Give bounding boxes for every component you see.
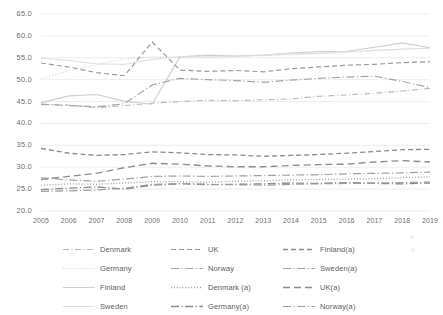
legend-item-germany-a[interactable]: Germany(a) xyxy=(170,302,282,311)
series-line-uk xyxy=(41,42,430,76)
y-axis-tick-label: 35.0 xyxy=(2,140,32,149)
x-axis-tick-label: 2014 xyxy=(277,217,305,224)
y-axis-tick-label: 25.0 xyxy=(2,184,32,193)
x-axis-tick-label: 2011 xyxy=(194,217,222,224)
legend-label: Sweden(a) xyxy=(320,264,357,273)
legend-item-denmark-a[interactable]: Denmark (a) xyxy=(170,283,282,292)
series-line-sweden xyxy=(41,48,430,64)
y-axis-tick-label: 65.0 xyxy=(2,9,32,18)
x-axis-tick-label: 2015 xyxy=(305,217,333,224)
legend-label: Denmark (a) xyxy=(208,283,251,292)
x-axis-tick-label: 2006 xyxy=(55,217,83,224)
legend-label: UK(a) xyxy=(320,283,340,292)
legend-label: Denmark xyxy=(100,245,131,254)
legend-item-norway[interactable]: Norway xyxy=(170,264,282,273)
x-axis-tick-label: 2017 xyxy=(360,217,388,224)
legend-label: Finland(a) xyxy=(320,245,355,254)
plot-area xyxy=(0,0,437,232)
y-axis-tick-label: 50.0 xyxy=(2,75,32,84)
x-axis-tick-label: 2019 xyxy=(416,217,443,224)
legend-swatch-icon xyxy=(170,302,204,311)
x-axis-tick-label: 2008 xyxy=(110,217,138,224)
legend-swatch-icon xyxy=(170,283,204,292)
legend-swatch-icon xyxy=(62,283,96,292)
x-axis-tick-label: 2010 xyxy=(166,217,194,224)
y-axis-tick-label: 45.0 xyxy=(2,97,32,106)
legend-swatch-icon xyxy=(282,283,316,292)
legend-item-denmark[interactable]: Denmark xyxy=(62,245,170,254)
legend-label: Sweden xyxy=(100,302,128,311)
watermark-mark: ● xyxy=(409,232,414,242)
series-line-uk-a xyxy=(41,161,430,180)
legend-swatch-icon xyxy=(62,264,96,273)
legend-item-uk-a[interactable]: UK(a) xyxy=(282,283,402,292)
legend-label: UK xyxy=(208,245,219,254)
series-line-denmark xyxy=(41,88,430,107)
legend-label: Norway(a) xyxy=(320,302,356,311)
x-axis-tick-label: 2005 xyxy=(27,217,55,224)
legend-swatch-icon xyxy=(282,245,316,254)
y-axis-tick-label: 30.0 xyxy=(2,162,32,171)
x-axis-tick-label: 2013 xyxy=(249,217,277,224)
legend-item-sweden-a[interactable]: Sweden(a) xyxy=(282,264,402,273)
y-axis-tick-label: 40.0 xyxy=(2,118,32,127)
legend-label: Norway xyxy=(208,264,234,273)
legend-label: Germany(a) xyxy=(208,302,249,311)
legend-item-norway-a[interactable]: Norway(a) xyxy=(282,302,402,311)
legend-item-uk[interactable]: UK xyxy=(170,245,282,254)
legend-item-germany[interactable]: Germany xyxy=(62,264,170,273)
legend-swatch-icon xyxy=(282,302,316,311)
x-axis-tick-label: 2007 xyxy=(83,217,111,224)
legend-swatch-icon xyxy=(170,264,204,273)
legend-label: Germany xyxy=(100,264,132,273)
series-line-finland-a xyxy=(41,148,430,156)
y-axis-tick-label: 60.0 xyxy=(2,31,32,40)
plot-svg xyxy=(0,0,437,232)
legend-swatch-icon xyxy=(62,245,96,254)
x-axis-tick-label: 2012 xyxy=(222,217,250,224)
y-axis-tick-label: 55.0 xyxy=(2,53,32,62)
y-axis-tick-label: 20.0 xyxy=(2,206,32,215)
series-line-norway xyxy=(41,76,430,107)
legend-item-finland-a[interactable]: Finland(a) xyxy=(282,245,402,254)
chart-legend: DenmarkUKFinland(a)GermanyNorwaySweden(a… xyxy=(62,240,422,315)
legend-label: Finland xyxy=(100,283,125,292)
x-axis-tick-label: 2018 xyxy=(388,217,416,224)
legend-item-finland[interactable]: Finland xyxy=(62,283,170,292)
x-axis-tick-label: 2016 xyxy=(333,217,361,224)
legend-swatch-icon xyxy=(62,302,96,311)
legend-item-sweden[interactable]: Sweden xyxy=(62,302,170,311)
x-axis-tick-label: 2009 xyxy=(138,217,166,224)
watermark-mark-2: ● xyxy=(410,245,415,255)
legend-swatch-icon xyxy=(170,245,204,254)
legend-swatch-icon xyxy=(282,264,316,273)
